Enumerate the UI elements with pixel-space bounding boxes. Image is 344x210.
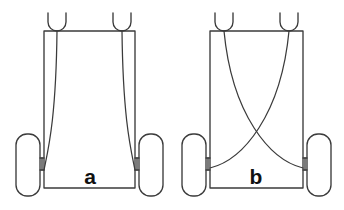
panel-a-cable-left [44, 31, 57, 170]
diagram-svg: ab [0, 0, 344, 210]
panel-a-label: a [84, 165, 96, 188]
panel-b-cable-right-to-left [210, 31, 289, 168]
panel-b-wheel-right [307, 134, 331, 196]
panel-b-hook-left [215, 13, 233, 31]
panel-a-wheel-left [16, 134, 40, 196]
panel-b-label: b [250, 165, 263, 188]
panel-a-hook-right [113, 13, 131, 31]
panel-a: a [16, 13, 163, 196]
figure-container: ab [0, 0, 344, 210]
panel-b-cable-left-to-right [224, 31, 303, 168]
panel-b-hook-right [280, 13, 298, 31]
panel-b-wheel-left [182, 134, 206, 196]
panel-a-wheel-right [139, 134, 163, 196]
panel-a-cable-right [122, 31, 135, 170]
panel-a-hook-left [48, 13, 66, 31]
panel-b: b [182, 13, 331, 196]
